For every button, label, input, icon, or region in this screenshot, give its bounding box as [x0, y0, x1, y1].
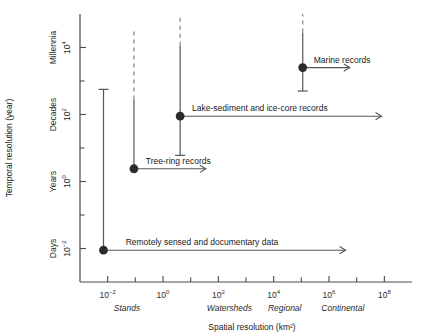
chart-canvas: 10−2100102104106108 10−2Days100Years102D…	[0, 0, 425, 336]
series-marker-dot	[99, 246, 108, 255]
y-axis-title: Temporal resolution (year)	[4, 98, 14, 197]
y-category-label: Millennia	[48, 30, 58, 64]
series-label: Remotely sensed and documentary data	[126, 237, 279, 247]
series-label: Tree-ring records	[146, 156, 211, 166]
series-marker-dot	[176, 112, 185, 121]
x-zone-label: Watersheds	[207, 303, 253, 313]
series-label: Lake-sediment and ice-core records	[192, 103, 328, 113]
y-category-label: Years	[48, 171, 58, 192]
y-category-label: Decades	[48, 98, 58, 132]
series-label: Marine records	[314, 55, 371, 65]
series-marker-dot	[130, 164, 139, 173]
series-marker-dot	[298, 63, 307, 72]
x-zone-label: Stands	[114, 303, 141, 313]
x-zone-label: Continental	[321, 303, 365, 313]
chart-figure: 10−2100102104106108 10−2Days100Years102D…	[0, 0, 425, 336]
x-zone-label: Regional	[268, 303, 303, 313]
x-axis-title: Spatial resolution (km²)	[208, 322, 296, 332]
y-category-label: Days	[48, 239, 58, 258]
